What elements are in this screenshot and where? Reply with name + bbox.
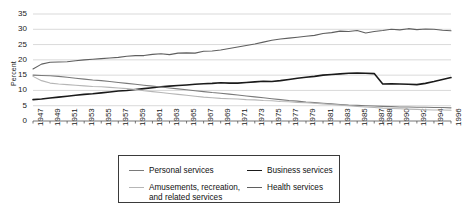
legend-label: Health services [267, 183, 323, 192]
legend-swatch [129, 170, 144, 171]
legend-swatch [247, 187, 262, 188]
legend-swatch [129, 187, 144, 188]
legend-label: Business services [267, 166, 333, 175]
legend-label: Amusements, recreation, [149, 183, 240, 192]
chart-legend: Personal servicesBusiness servicesAmusem… [118, 155, 340, 203]
legend-label-continued: and related services [149, 193, 222, 202]
series-line [33, 75, 451, 108]
series-line [33, 29, 451, 69]
legend-swatch [247, 170, 262, 171]
series-lines [33, 29, 451, 111]
legend-label: Personal services [149, 166, 214, 175]
